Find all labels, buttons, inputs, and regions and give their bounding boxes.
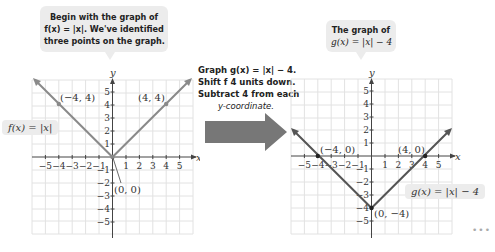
- svg-text:−4: −4: [311, 160, 325, 170]
- svg-text:2: 2: [363, 125, 369, 135]
- svg-text:2: 2: [104, 126, 110, 136]
- svg-text:4: 4: [422, 160, 428, 170]
- svg-text:−5: −5: [356, 216, 370, 226]
- svg-text:2: 2: [137, 161, 143, 171]
- right-callout-line-1: The graph of: [331, 24, 391, 36]
- svg-text:1: 1: [363, 138, 369, 148]
- svg-text:3: 3: [104, 113, 110, 123]
- svg-text:−5: −5: [97, 217, 111, 227]
- left-callout-line-1: Begin with the graph of: [44, 11, 164, 23]
- svg-text:5: 5: [363, 86, 369, 96]
- callout-tail: [105, 52, 115, 60]
- svg-text:1: 1: [382, 160, 388, 170]
- svg-text:4: 4: [163, 161, 169, 171]
- right-callout: The graph of g(x) = |x| − 4: [326, 20, 396, 52]
- point-label: (4, 4): [138, 92, 165, 103]
- svg-text:5: 5: [177, 161, 183, 171]
- left-callout-line-2: f(x) = |x|. We've identified: [44, 23, 164, 35]
- right-graph: x y −5 −4 −3 −2 −1 1 2 3 4 5 5 4 3 2 1 −…: [280, 70, 465, 240]
- svg-text:1: 1: [104, 139, 110, 149]
- x-axis-label: x: [196, 152, 200, 163]
- svg-text:−1: −1: [97, 165, 110, 175]
- point-label: (−4, 0): [320, 144, 355, 155]
- callout-tail: [356, 52, 366, 60]
- y-axis-label: y: [109, 70, 116, 78]
- svg-text:5: 5: [104, 87, 110, 97]
- g-function-label: g(x) = |x| − 4: [405, 184, 485, 199]
- svg-text:5: 5: [436, 160, 442, 170]
- point-label: (0, −4): [374, 208, 409, 219]
- x-axis-label: x: [455, 151, 461, 162]
- svg-text:−2: −2: [79, 161, 92, 171]
- point-label: (4, 0): [398, 144, 425, 155]
- left-graph: x y −5 −4 −3 −2 −1 1 2 3 4 5 5 4 3 2 1 −…: [20, 70, 200, 240]
- svg-text:3: 3: [150, 161, 156, 171]
- point-label: (0, 0): [114, 184, 141, 195]
- svg-text:−1: −1: [356, 164, 369, 174]
- left-callout-line-3: three points on the graph.: [44, 35, 164, 47]
- point-label: (−4, 4): [60, 92, 95, 103]
- svg-text:−3: −3: [97, 191, 111, 201]
- more-options-icon[interactable]: •••: [472, 225, 491, 235]
- svg-text:2: 2: [396, 160, 402, 170]
- transform-arrow-icon: [205, 113, 287, 151]
- svg-text:4: 4: [363, 99, 369, 109]
- svg-text:3: 3: [363, 112, 369, 122]
- svg-text:4: 4: [104, 100, 110, 110]
- svg-text:−5: −5: [39, 161, 53, 171]
- svg-text:−2: −2: [338, 160, 351, 170]
- svg-text:−4: −4: [97, 204, 111, 214]
- svg-text:−5: −5: [298, 160, 312, 170]
- svg-text:−2: −2: [97, 178, 110, 188]
- left-callout: Begin with the graph of f(x) = |x|. We'v…: [40, 6, 168, 52]
- svg-text:−4: −4: [52, 161, 66, 171]
- f-function-label: f(x) = |x|: [2, 120, 58, 135]
- right-callout-line-2: g(x) = |x| − 4: [331, 36, 391, 48]
- svg-text:1: 1: [123, 161, 129, 171]
- svg-text:−3: −3: [66, 161, 80, 171]
- y-axis-label: y: [368, 70, 375, 78]
- svg-text:−2: −2: [356, 177, 369, 187]
